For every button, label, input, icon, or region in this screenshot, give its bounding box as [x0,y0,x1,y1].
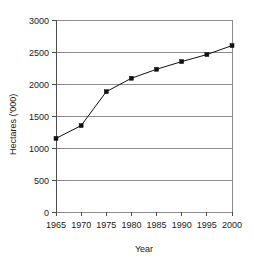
y-tick-label-1000: 1000 [29,144,49,154]
y-tick-label-500: 500 [34,176,49,186]
y-tick-label-3000: 3000 [29,16,49,26]
y-axis-title: Hectares ('000) [8,94,18,155]
data-point-1995 [205,53,209,57]
data-point-1990 [180,60,184,64]
y-tick-label-2000: 2000 [29,80,49,90]
x-tick-label-1975: 1975 [96,220,116,230]
y-tick-label-2500: 2500 [29,48,49,58]
data-point-2000 [230,44,234,48]
x-axis-title: Year [135,244,153,254]
data-point-1975 [104,90,108,94]
x-tick-label-1990: 1990 [172,220,192,230]
data-point-1970 [79,124,83,128]
data-point-1985 [155,67,159,71]
x-tick-label-1965: 1965 [46,220,66,230]
data-point-1965 [54,136,58,140]
x-tick-label-1995: 1995 [197,220,217,230]
line-chart: 050010001500200025003000 196519701975198… [0,0,254,259]
y-tick-label-0: 0 [44,208,49,218]
x-tick-label-1980: 1980 [121,220,141,230]
y-tick-label-1500: 1500 [29,112,49,122]
x-tick-label-2000: 2000 [222,220,242,230]
chart-svg: 050010001500200025003000 196519701975198… [0,0,254,259]
x-tick-label-1970: 1970 [71,220,91,230]
x-tick-label-1985: 1985 [147,220,167,230]
data-point-1980 [129,76,133,80]
